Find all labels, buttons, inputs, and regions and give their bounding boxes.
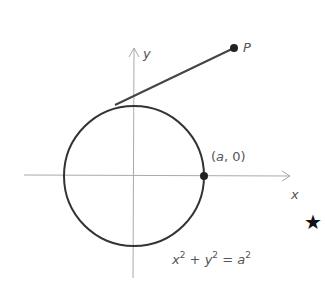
point-p: [230, 44, 238, 52]
eq-x-exp: 2: [180, 250, 186, 260]
a-var: a: [216, 149, 224, 164]
point-a0-label: (a, 0): [211, 150, 246, 163]
circle-equation: x2 + y2 = a2: [172, 251, 251, 266]
eq-x: x: [172, 252, 180, 267]
point-a0: [200, 172, 208, 180]
eq-plus: +: [190, 252, 201, 267]
x-axis-label: x: [291, 188, 299, 201]
paren-rest: , 0): [224, 149, 246, 164]
eq-equals: =: [222, 252, 233, 267]
star-icon: ★: [304, 212, 322, 232]
eq-y-exp: 2: [212, 250, 218, 260]
diagram-canvas: [0, 0, 325, 282]
y-axis: [133, 48, 134, 278]
point-p-label: P: [243, 41, 251, 54]
eq-a-exp: 2: [245, 250, 251, 260]
tangent-line: [115, 48, 234, 105]
y-axis-label: y: [143, 47, 151, 60]
